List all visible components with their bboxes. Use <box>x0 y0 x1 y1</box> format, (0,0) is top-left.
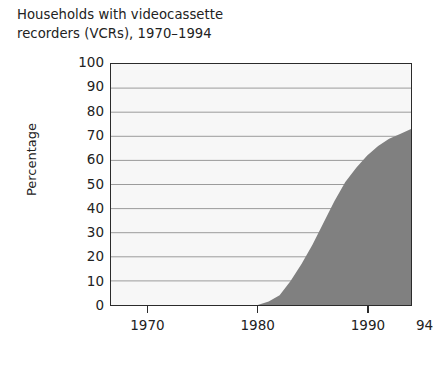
plot-area <box>110 63 412 306</box>
x-axis-tick-mark <box>147 306 149 313</box>
chart-figure: Households with videocassette recorders … <box>0 0 439 370</box>
y-axis-tick-label: 30 <box>60 226 104 240</box>
y-axis-tick-label: 20 <box>60 250 104 264</box>
y-axis-tick-label: 60 <box>60 153 104 167</box>
x-axis-tick-mark <box>367 306 369 313</box>
y-axis-tick-label: 0 <box>60 299 104 313</box>
x-axis-tick-label: 1980 <box>223 317 293 333</box>
y-axis-tick-label: 40 <box>60 202 104 216</box>
chart-title: Households with videocassette recorders … <box>17 5 307 43</box>
y-axis-tick-label: 100 <box>60 56 104 70</box>
y-axis-tick-label: 80 <box>60 105 104 119</box>
plot-svg <box>111 64 411 305</box>
x-axis-tick-labels: 19701980199094 <box>110 306 412 354</box>
x-axis-tick-mark <box>257 306 259 313</box>
y-axis-tick-label: 50 <box>60 178 104 192</box>
y-axis-tick-label: 10 <box>60 275 104 289</box>
y-axis-tick-labels: 1009080706050403020100 <box>58 63 104 306</box>
area-series-vcr-households <box>148 129 411 305</box>
y-axis-label: Percentage <box>24 100 39 220</box>
x-axis-tick-label: 1990 <box>333 317 403 333</box>
y-axis-tick-label: 70 <box>60 129 104 143</box>
y-axis-tick-label: 90 <box>60 80 104 94</box>
x-axis-tick-label: 1970 <box>112 317 182 333</box>
x-axis-tick-label: 94 <box>416 317 439 333</box>
